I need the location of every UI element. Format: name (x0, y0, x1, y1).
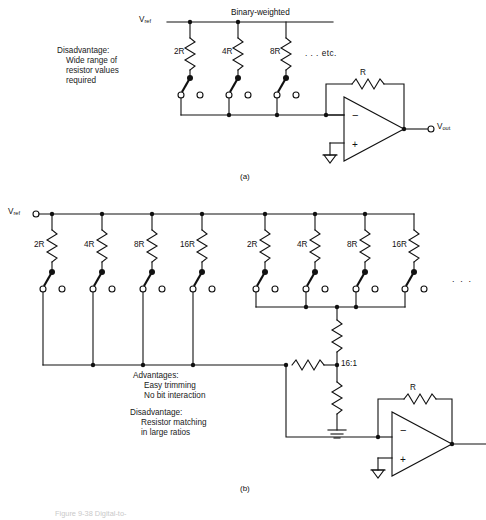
resistor-label-b2-16r: 16R (392, 240, 407, 249)
panel-a-binary-weighted-label: Binary-weighted (231, 8, 290, 17)
panel-b-disadvantage-line-3: in large ratios (141, 428, 190, 439)
panel-a-etc-label: . . . etc. (305, 49, 337, 58)
resistor-label-b1-2r: 2R (34, 240, 44, 249)
panel-a-schematic: − + (0, 0, 486, 185)
switch-group-b (40, 269, 427, 292)
resistor-label-b2-4r: 4R (297, 240, 307, 249)
panel-a-note-line-4: required (66, 76, 96, 87)
panel-a-note-line-1: Disadvantage: (57, 46, 109, 57)
panel-a-note-line-2: Wide range of (66, 56, 117, 67)
resistor-label-a-8r: 8R (270, 47, 280, 56)
panel-b-disadvantage-line-2: Resistor matching (141, 418, 207, 429)
panel-b-advantages-line-2: Easy trimming (144, 381, 196, 392)
panel-b-caption: (b) (240, 484, 250, 493)
divider-ratio-label: 16:1 (341, 359, 357, 368)
resistor-label-b1-16r: 16R (180, 240, 195, 249)
panel-a-caption: (a) (240, 172, 250, 181)
opamp-a-minus-sign: − (352, 109, 358, 121)
panel-a-vref-label: Vref (139, 15, 151, 24)
panel-a-note-line-3: resistor values (66, 66, 119, 77)
opamp-a-plus-sign: + (352, 139, 358, 150)
figure-canvas: − + Vref Binary-weighted 2R 4R 8R . . . … (0, 0, 486, 520)
panel-b-ellipsis: . . . (452, 274, 473, 284)
panel-b-disadvantage-line-1: Disadvantage: (130, 408, 182, 419)
resistor-label-b2-8r: 8R (347, 240, 357, 249)
opamp-b-minus-sign: − (400, 424, 406, 436)
figure-caption-partial: Figure 9-38 Digital-to- (55, 509, 126, 518)
resistor-label-b1-8r: 8R (134, 240, 144, 249)
feedback-resistor-label-a: R (360, 68, 366, 77)
resistor-label-b1-4r: 4R (84, 240, 94, 249)
resistor-label-a-2r: 2R (174, 47, 184, 56)
panel-b-advantages-line-3: No bit interaction (144, 391, 205, 402)
opamp-b-plus-sign: + (400, 454, 406, 465)
resistor-label-b2-2r: 2R (247, 240, 257, 249)
panel-b-vref-label: Vref (8, 207, 20, 216)
panel-b-schematic: − + (0, 200, 486, 490)
panel-b-advantages-line-1: Advantages: (133, 371, 179, 382)
resistor-label-a-4r: 4R (222, 47, 232, 56)
panel-a-vout-label: Vout (437, 122, 450, 131)
feedback-resistor-label-b: R (410, 383, 416, 392)
switch-group-a (178, 75, 299, 98)
